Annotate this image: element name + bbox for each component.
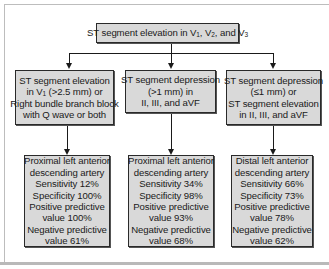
result-1-npv-label: Negative predictive [27,224,107,235]
result-node-2: Proximal left anterior descending artery… [128,155,214,247]
criteria-1-line-3: Right bundle branch block [10,98,118,109]
result-1-ppv-value: value 100% [42,212,91,223]
result-2-npv-value: value 68% [149,235,193,246]
result-2-npv-label: Negative predictive [131,224,211,235]
criteria-node-1: ST segment elevation in V1 (>2.5 mm) or … [15,70,114,125]
root-node-label: ST segment elevation in V1, V2, and V3 [87,27,248,38]
result-3-ppv-value: value 78% [250,212,294,223]
criteria-3-line-3: ST segment elevation [228,98,319,109]
root-label-text-2: , V [200,27,211,38]
root-stem-connector [171,44,172,53]
bottom-divider [0,262,329,265]
criteria-1-line-2: in V1 (>2.5 mm) or [26,86,102,97]
criteria-2-line-3: II, III, and aVF [141,97,200,108]
criteria-1-line-1: ST segment elevation [19,75,110,86]
result-1-location-line-2: descending artery [30,167,105,178]
criteria-3-line-2: (≤1 mm) or [251,86,297,97]
root-node: ST segment elevation in V1, V2, and V3 [96,23,239,43]
criteria-3-line-1: ST segment depression [224,75,323,86]
result-2-location-line-2: descending artery [134,167,209,178]
result-3-npv-value: value 62% [250,235,294,246]
result-1-specificity: Specificity 100% [33,190,102,201]
result-1-ppv-label: Positive predictive [29,201,104,212]
criteria-node-3: ST segment depression (≤1 mm) or ST segm… [226,70,321,125]
criteria-3-line-4: in II, III, and aVF [239,109,308,120]
criteria-2-line-2: (>1 mm) in [148,86,193,97]
result-3-location-line-2: descending artery [235,167,310,178]
result-node-3: Distal left anterior descending artery S… [231,155,313,247]
result-3-sensitivity: Sensitivity 66% [240,178,304,189]
result-2-ppv-label: Positive predictive [133,201,208,212]
branch-1-arrow-icon [66,63,72,69]
result-3-specificity: Specificity 73% [240,190,304,201]
result-1-location-line-1: Proximal left anterior [24,155,110,166]
criteria-1-text: in V [26,86,42,97]
result-1-sensitivity: Sensitivity 12% [35,178,99,189]
root-label-sub-3: 3 [245,31,249,38]
criteria-1-line-4: with Q wave or both [23,109,106,120]
result-2-connector [171,114,172,152]
result-3-location-line-1: Distal left anterior [236,155,309,166]
result-2-specificity: Specificity 98% [139,190,203,201]
root-label-text-3: , and V [215,27,245,38]
result-2-sensitivity: Sensitivity 34% [139,178,203,189]
criteria-1-text-2: (>2.5 mm) or [46,86,103,97]
criteria-2-line-1: ST segment depression [121,74,220,85]
result-node-1: Proximal left anterior descending artery… [24,155,110,247]
criteria-node-2: ST segment depression (>1 mm) in II, III… [125,70,216,113]
root-label-text-1: ST segment elevation in V [87,27,196,38]
result-2-location-line-1: Proximal left anterior [128,155,214,166]
result-1-npv-value: value 61% [45,235,89,246]
result-2-ppv-value: value 93% [149,212,193,223]
result-3-npv-label: Negative predictive [232,224,312,235]
branch-2-arrow-icon [168,63,174,69]
branch-3-arrow-icon [270,63,276,69]
result-3-ppv-label: Positive predictive [234,201,309,212]
